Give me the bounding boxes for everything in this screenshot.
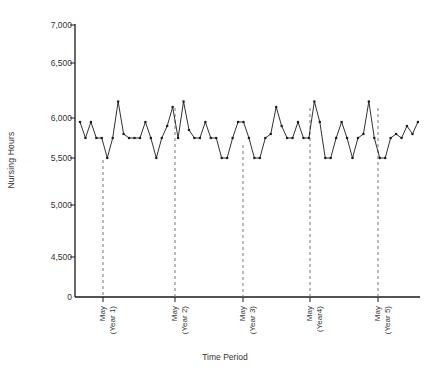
- data-point: [182, 100, 184, 102]
- data-point: [324, 157, 326, 159]
- data-point: [90, 121, 92, 123]
- data-point: [193, 137, 195, 139]
- x-tick-may-year-4-wrap: May (Year4): [305, 306, 317, 366]
- data-point: [166, 125, 168, 127]
- data-point: [215, 137, 217, 139]
- data-point: [308, 137, 310, 139]
- data-point: [319, 121, 321, 123]
- data-point: [133, 137, 135, 139]
- data-point: [155, 157, 157, 159]
- data-point: [84, 137, 86, 139]
- data-point: [204, 121, 206, 123]
- x-tick-line2: (Year 1): [108, 306, 118, 366]
- data-point: [313, 100, 315, 102]
- nursing-hours-line-chart: Nursing Hours 7,000 6,500 6,000 5,500 5,…: [0, 0, 445, 374]
- data-point: [400, 137, 402, 139]
- data-point: [232, 137, 234, 139]
- data-point: [123, 133, 125, 135]
- x-tick-line1: May: [373, 306, 382, 321]
- data-point: [335, 137, 337, 139]
- data-point: [281, 125, 283, 127]
- data-point: [379, 157, 381, 159]
- data-point: [270, 133, 272, 135]
- x-tick-marks: [103, 297, 378, 302]
- x-tick-may-year-1: May (Year 1): [98, 306, 117, 366]
- data-point: [128, 137, 130, 139]
- x-tick-may-year-5: May (Year 5): [373, 306, 392, 366]
- data-point: [264, 137, 266, 139]
- data-point: [384, 157, 386, 159]
- x-tick-line1: May: [238, 306, 247, 321]
- data-point: [330, 157, 332, 159]
- data-point: [390, 137, 392, 139]
- data-point: [302, 137, 304, 139]
- data-point: [139, 137, 141, 139]
- data-point: [357, 137, 359, 139]
- data-point: [226, 157, 228, 159]
- data-point: [242, 121, 244, 123]
- data-point: [210, 137, 212, 139]
- data-point: [221, 157, 223, 159]
- x-tick-line1: May: [305, 306, 314, 321]
- data-point: [259, 157, 261, 159]
- data-point: [117, 100, 119, 102]
- data-point: [101, 137, 103, 139]
- data-point: [346, 137, 348, 139]
- data-point: [406, 125, 408, 127]
- x-tick-may-year-5-wrap: May (Year 5): [373, 306, 385, 366]
- data-point: [237, 121, 239, 123]
- data-series-line: [80, 102, 418, 159]
- data-point: [150, 137, 152, 139]
- x-axis-title: Time Period: [160, 352, 290, 362]
- x-tick-line1: May: [98, 306, 107, 321]
- data-point: [275, 106, 277, 108]
- data-point: [144, 121, 146, 123]
- data-point: [351, 157, 353, 159]
- data-point: [95, 137, 97, 139]
- x-tick-line1: May: [170, 306, 179, 321]
- data-point: [79, 121, 81, 123]
- x-tick-may-year-1-wrap: May (Year 1): [98, 306, 110, 366]
- data-point: [286, 137, 288, 139]
- data-point: [362, 133, 364, 135]
- data-point: [199, 137, 201, 139]
- data-point: [112, 137, 114, 139]
- y-tick-marks: [70, 25, 75, 257]
- data-point: [395, 133, 397, 135]
- data-point: [297, 121, 299, 123]
- data-point: [177, 137, 179, 139]
- data-point: [253, 157, 255, 159]
- data-point: [368, 100, 370, 102]
- data-point: [188, 129, 190, 131]
- data-point: [248, 137, 250, 139]
- data-point: [373, 137, 375, 139]
- data-point: [161, 137, 163, 139]
- data-point: [106, 157, 108, 159]
- data-point: [291, 137, 293, 139]
- x-tick-line2: (Year4): [315, 306, 325, 366]
- data-point: [417, 121, 419, 123]
- data-point: [341, 121, 343, 123]
- x-tick-may-year-4: May (Year4): [305, 306, 324, 366]
- data-point: [172, 106, 174, 108]
- data-point: [411, 133, 413, 135]
- x-tick-line2: (Year 5): [383, 306, 393, 366]
